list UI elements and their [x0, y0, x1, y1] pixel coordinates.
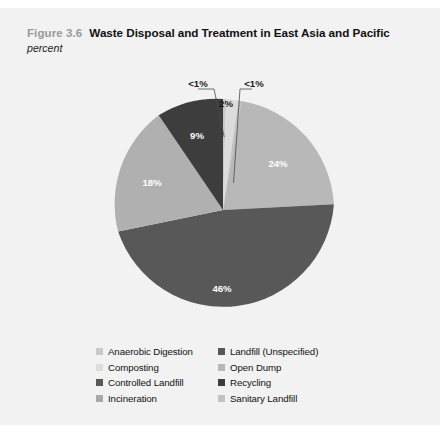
pie-label-recycling: 9% [190, 130, 204, 141]
legend-label: Anaerobic Digestion [108, 346, 193, 357]
pie-chart: <1% 2% <1% 24% 46% 18% 9% [0, 8, 440, 348]
pie-label-sanitary-landfill: <1% [244, 78, 264, 89]
legend-item-anaerobic-digestion[interactable]: Anaerobic Digestion [96, 346, 218, 357]
legend-swatch-icon [218, 379, 225, 386]
legend-swatch-icon [218, 348, 225, 355]
pie-slice-open-dump[interactable] [223, 101, 334, 210]
legend-swatch-icon [96, 348, 103, 355]
legend-swatch-icon [96, 364, 103, 371]
legend-item-open-dump[interactable]: Open Dump [218, 362, 362, 373]
legend-swatch-icon [218, 395, 225, 402]
pie-label-controlled-landfill: 18% [142, 177, 162, 188]
chart-legend: Anaerobic Digestion Landfill (Unspecifie… [96, 344, 362, 406]
legend-label: Open Dump [230, 362, 281, 373]
legend-item-incineration[interactable]: Incineration [96, 393, 218, 404]
legend-label: Composting [108, 362, 159, 373]
legend-item-controlled-landfill[interactable]: Controlled Landfill [96, 377, 218, 388]
legend-item-composting[interactable]: Composting [96, 362, 218, 373]
legend-item-landfill-unspecified[interactable]: Landfill (Unspecified) [218, 346, 362, 357]
pie-chart-svg: <1% 2% <1% 24% 46% 18% 9% [0, 8, 440, 348]
legend-swatch-icon [218, 364, 225, 371]
pie-label-landfill-unspecified: 46% [212, 283, 232, 294]
figure-panel: Figure 3.6 Waste Disposal and Treatment … [0, 8, 440, 425]
legend-label: Recycling [230, 377, 271, 388]
legend-label: Incineration [108, 393, 157, 404]
legend-swatch-icon [96, 395, 103, 402]
pie-label-open-dump: 24% [268, 158, 288, 169]
legend-item-sanitary-landfill[interactable]: Sanitary Landfill [218, 393, 362, 404]
legend-label: Controlled Landfill [108, 377, 184, 388]
legend-label: Landfill (Unspecified) [230, 346, 318, 357]
legend-item-recycling[interactable]: Recycling [218, 377, 362, 388]
legend-label: Sanitary Landfill [230, 393, 297, 404]
pie-label-composting: 2% [219, 98, 233, 109]
pie-slices [115, 99, 334, 307]
legend-swatch-icon [96, 379, 103, 386]
pie-label-anaerobic-digestion: <1% [188, 78, 208, 89]
